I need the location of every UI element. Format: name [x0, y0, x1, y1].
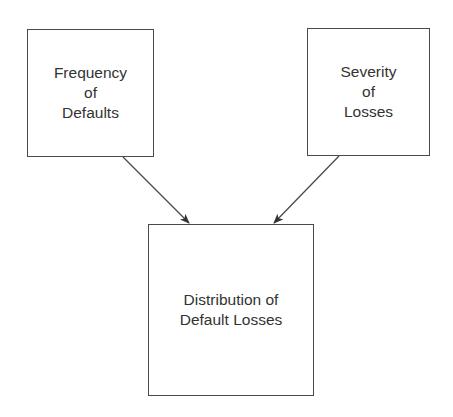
label-line: of: [341, 82, 397, 102]
severity-of-losses-box: Severity of Losses: [307, 28, 430, 156]
label-line: Frequency: [54, 63, 127, 83]
label-line: Distribution of: [180, 290, 283, 310]
arrow-frequency-to-distribution: [123, 157, 189, 223]
arrow-severity-to-distribution: [274, 156, 339, 223]
label-line: of: [54, 83, 127, 103]
label-line: Default Losses: [180, 310, 283, 330]
label-line: Losses: [341, 102, 397, 122]
distribution-of-default-losses-box: Distribution of Default Losses: [148, 224, 314, 396]
frequency-of-defaults-label: Frequency of Defaults: [54, 63, 127, 123]
frequency-of-defaults-box: Frequency of Defaults: [27, 29, 154, 157]
severity-of-losses-label: Severity of Losses: [341, 62, 397, 122]
distribution-of-default-losses-label: Distribution of Default Losses: [180, 290, 283, 330]
label-line: Defaults: [54, 103, 127, 123]
label-line: Severity: [341, 62, 397, 82]
